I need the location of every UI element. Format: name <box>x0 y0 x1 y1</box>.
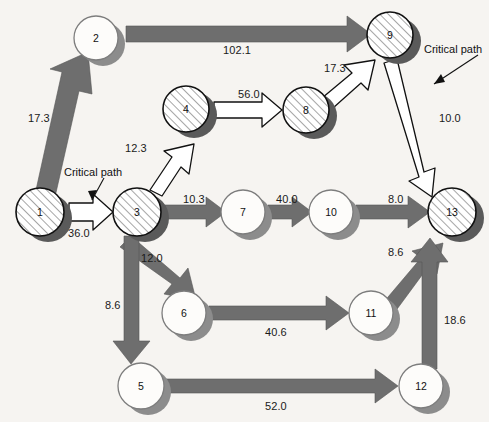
edge-value-3-to-4: 12.3 <box>125 143 147 154</box>
edge-value-9-to-13: 10.0 <box>439 113 461 124</box>
node-1[interactable] <box>16 188 64 236</box>
node-11[interactable] <box>349 291 393 335</box>
edge-value-3-to-6: 12.0 <box>141 253 163 264</box>
critical-path-annotation-right: Critical path <box>424 44 482 55</box>
node-7[interactable] <box>221 190 265 234</box>
node-10[interactable] <box>309 190 353 234</box>
edge-value-3-to-7: 10.3 <box>183 194 205 205</box>
node-4[interactable] <box>163 86 209 132</box>
edge-value-6-to-11: 40.6 <box>265 327 287 338</box>
node-12[interactable] <box>399 364 443 408</box>
critical-path-annotation-left: Critical path <box>64 167 122 178</box>
edge-value-5-to-12: 52.0 <box>265 401 287 412</box>
node-2[interactable] <box>74 16 118 60</box>
edge-value-12-to-13: 18.6 <box>444 315 466 326</box>
edge-value-2-to-9: 102.1 <box>223 45 251 56</box>
edge-value-3-to-5: 8.6 <box>105 300 121 311</box>
edge-value-10-to-13: 8.0 <box>388 194 404 205</box>
node-3[interactable] <box>113 188 161 236</box>
node-6[interactable] <box>162 291 206 335</box>
edge-value-11-to-13: 8.6 <box>388 247 404 258</box>
edge-value-1-to-3: 36.0 <box>68 228 90 239</box>
edge-value-8-to-9: 17.3 <box>324 63 346 74</box>
node-13[interactable] <box>428 188 476 236</box>
node-8[interactable] <box>283 87 329 133</box>
edge-value-7-to-10: 40.0 <box>276 194 298 205</box>
network-diagram-canvas <box>0 0 489 422</box>
node-9[interactable] <box>367 12 413 58</box>
node-5[interactable] <box>118 363 164 409</box>
edge-value-1-to-2: 17.3 <box>28 113 50 124</box>
edge-value-4-to-8: 56.0 <box>238 89 260 100</box>
